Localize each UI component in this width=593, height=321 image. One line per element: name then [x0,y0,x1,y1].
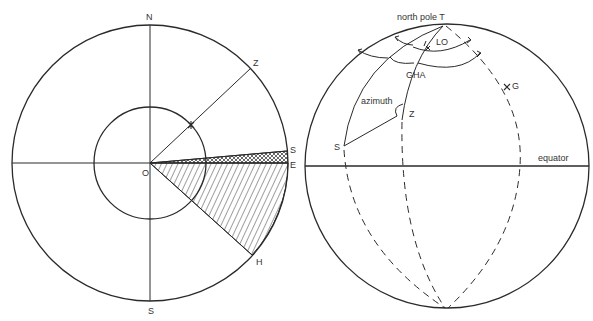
zenith-line [150,68,251,163]
label-sun: S [290,145,296,155]
label-north: N [146,12,153,22]
g-star-marker-icon [504,84,510,90]
label-zenith: Z [253,58,259,68]
label-h: H [256,257,263,267]
meridian-g-dashed [446,26,520,308]
label-zenith: Z [409,109,415,119]
hatched-sector [150,163,288,255]
label-sun: S [334,142,340,152]
label-equator: equator [538,153,569,163]
label-azimuth: azimuth [361,96,393,106]
lo-arrow-right-icon [467,37,471,43]
figure-canvas: N Z S E O H S [0,0,593,321]
left-diagram: N Z S E O H S [12,12,296,316]
label-north-pole: north pole T [397,12,445,22]
label-lo: LO [436,37,448,47]
pole-dash [424,41,426,46]
right-diagram: north pole T LO GHA G azimuth Z S equato… [305,12,589,308]
star-marker-icon [188,121,194,129]
sun-zenith-line [344,116,397,146]
label-center: O [142,168,149,178]
gha-arc [418,53,480,67]
meridian-sun-dashed [344,150,445,308]
label-east: E [290,160,296,170]
gha-arc-left [390,57,414,63]
label-gha: GHA [406,70,426,80]
lo-cross-marker-icon [426,46,430,50]
label-g: G [512,81,519,91]
label-south: S [148,306,154,316]
azimuth-angle-arc [395,104,403,116]
